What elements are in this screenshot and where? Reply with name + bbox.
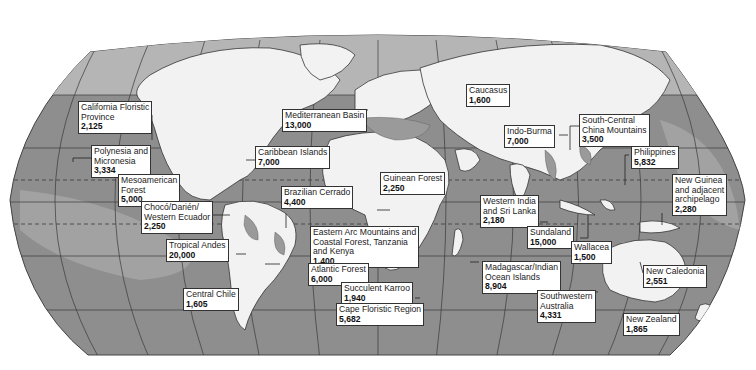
label-central-chile: Central Chile 1,605: [183, 288, 239, 311]
hotspot-value: 3,500: [582, 135, 647, 145]
label-cape-floristic: Cape Floristic Region 5,682: [336, 303, 424, 326]
label-south-central-china: South-Central China Mountains 3,500: [579, 114, 650, 147]
label-new-guinea: New Guinea and adjacent archipelago 2,28…: [672, 174, 727, 216]
label-sundaland: Sundaland 15,000: [527, 226, 574, 249]
label-brazilian-cerrado: Brazilian Cerrado 4,400: [281, 186, 353, 209]
label-caucasus: Caucasus 1,600: [466, 84, 510, 107]
hotspot-value: 2,250: [144, 222, 210, 232]
hotspot-value: 2,180: [483, 216, 536, 226]
hotspot-value: 7,000: [507, 137, 552, 147]
label-polynesia: Polynesia and Micronesia 3,334: [91, 145, 151, 178]
hotspot-value: 1,500: [574, 253, 609, 263]
label-western-india: Western India and Sri Lanka 2,180: [480, 195, 539, 228]
label-indo-burma: Indo-Burma 7,000: [504, 125, 555, 148]
label-wallacea: Wallacea 1,500: [571, 241, 612, 264]
label-new-caledonia: New Caledonia 2,551: [643, 265, 707, 288]
hotspot-value: 4,331: [540, 311, 593, 321]
hotspot-value: 2,280: [675, 205, 724, 215]
label-madagascar: Madagascar/Indian Ocean Islands 8,904: [482, 261, 561, 294]
label-philippines: Philippines 5,832: [631, 146, 679, 169]
label-choco: Chocó/Darién/ Western Ecuador 2,250: [141, 201, 213, 234]
hotspot-value: 2,125: [81, 122, 149, 132]
label-tropical-andes: Tropical Andes 20,000: [166, 239, 229, 262]
hotspot-value: 5,832: [634, 158, 676, 168]
label-new-zealand: New Zealand 1,865: [623, 313, 680, 336]
hotspot-value: 2,551: [646, 277, 704, 287]
hotspot-value: 15,000: [530, 238, 571, 248]
hotspot-value: 4,400: [284, 198, 350, 208]
hotspot-value: 1,605: [186, 300, 236, 310]
hotspot-value: 2,250: [383, 184, 442, 194]
label-caribbean: Caribbean Islands 7,000: [255, 146, 330, 169]
hotspot-value: 7,000: [258, 158, 327, 168]
label-mediterranean: Mediterranean Basin 13,000: [282, 109, 367, 132]
label-california-floristic: California Floristic Province 2,125: [78, 101, 152, 134]
hotspot-value: 1,600: [469, 96, 507, 106]
label-succulent-karroo: Succulent Karroo 1,940: [341, 282, 413, 305]
hotspot-value: 20,000: [169, 251, 226, 261]
hotspot-value: 1,865: [626, 325, 677, 335]
label-southwestern-australia: Southwestern Australia 4,331: [537, 290, 596, 323]
hotspot-value: 1,940: [344, 294, 410, 304]
hotspot-value: 13,000: [285, 121, 364, 131]
hotspot-value: 5,682: [339, 315, 421, 325]
label-guinean-forest: Guinean Forest 2,250: [380, 172, 445, 195]
